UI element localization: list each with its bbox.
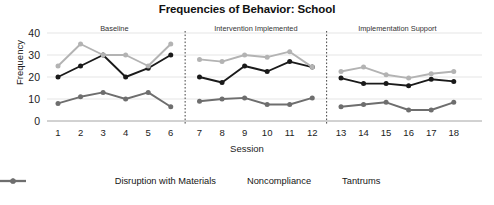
data-point [451,79,456,84]
series-line [341,67,454,78]
legend-item: Tantrums [341,176,380,186]
data-point [265,55,270,60]
data-point [56,75,61,80]
series-line [341,78,454,86]
data-point [361,81,366,86]
data-point [406,108,411,113]
legend-label-tantrums: Tantrums [342,176,380,186]
data-point [123,53,128,58]
series-line [200,52,313,67]
data-point [56,64,61,69]
data-point [123,75,128,80]
data-point [339,69,344,74]
data-point [146,90,151,95]
series-tantrums [56,90,457,113]
data-point [168,104,173,109]
data-point [361,102,366,107]
legend-label-disruption: Disruption with Materials [115,176,216,186]
chart-figure: Frequencies of Behavior: School Frequenc… [0,0,494,205]
data-point [287,102,292,107]
plot-area [0,0,494,205]
data-point [242,53,247,58]
data-point [242,64,247,69]
data-point [429,108,434,113]
legend-item: Disruption with Materials [114,176,216,186]
data-point [339,76,344,81]
data-point [78,94,83,99]
chart-legend: Disruption with Materials Noncompliance … [0,176,494,186]
series-disruption-with-materials [56,53,457,89]
data-point [287,59,292,64]
data-point [242,95,247,100]
legend-marker-tantrums [0,176,26,186]
series-noncompliance [56,42,457,81]
series-line [341,102,454,110]
data-point [339,104,344,109]
data-point [361,65,366,70]
data-point [220,97,225,102]
data-point [384,81,389,86]
data-point [406,76,411,81]
series-line [58,92,171,106]
data-point [220,59,225,64]
data-point [220,80,225,85]
data-point [101,53,106,58]
data-point [451,100,456,105]
data-point [197,75,202,80]
data-point [101,90,106,95]
data-point [56,101,61,106]
data-point [451,69,456,74]
data-point [78,64,83,69]
data-point [310,65,315,70]
data-point [197,57,202,62]
data-point [287,49,292,54]
data-point [265,102,270,107]
data-point [310,95,315,100]
legend-label-noncompliance: Noncompliance [247,176,311,186]
series-line [58,55,171,77]
data-point [384,72,389,77]
data-point [384,100,389,105]
data-point [146,64,151,69]
data-point [78,42,83,47]
data-point [429,71,434,76]
data-point [406,83,411,88]
data-point [168,42,173,47]
data-point [265,69,270,74]
data-point [429,77,434,82]
legend-item: Noncompliance [246,176,311,186]
data-point [123,97,128,102]
data-point [197,99,202,104]
data-point [168,53,173,58]
series-line [200,62,313,83]
